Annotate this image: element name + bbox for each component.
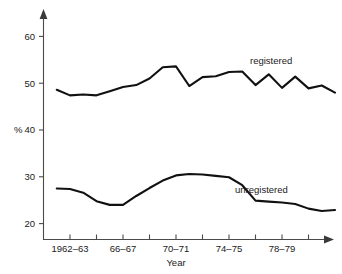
y-tick-label-40: 40 [24,124,35,135]
x-axis-tick-labels: 1962–63 66–67 70–71 74–75 78–79 [52,243,296,254]
y-axis-title: % [14,124,23,135]
y-axis [40,9,48,240]
x-tick-label-1962-63: 1962–63 [52,243,89,254]
y-tick-label-20: 20 [24,218,35,229]
series-label-unregistered: unregistered [235,184,288,195]
x-tick-label-70-71: 70–71 [163,243,189,254]
x-axis-ticks [70,235,309,240]
y-axis-tick-labels: 60 50 40 30 20 [24,31,35,229]
series-line-unregistered [57,174,335,211]
x-tick-label-66-67: 66–67 [110,243,136,254]
y-tick-label-60: 60 [24,31,35,42]
chart-container: 60 50 40 30 20 % 1962–63 66–67 70–71 74– [0,0,342,274]
x-tick-label-78-79: 78–79 [269,243,295,254]
series-label-registered: registered [250,55,292,66]
series-line-registered [57,66,335,95]
x-axis-arrow-icon [324,236,334,244]
y-tick-label-50: 50 [24,78,35,89]
y-axis-ticks [39,36,44,223]
y-axis-arrow-icon [40,9,48,19]
x-tick-label-74-75: 74–75 [216,243,242,254]
line-chart: 60 50 40 30 20 % 1962–63 66–67 70–71 74– [0,0,342,274]
y-tick-label-30: 30 [24,171,35,182]
x-axis-title: Year [166,257,185,268]
